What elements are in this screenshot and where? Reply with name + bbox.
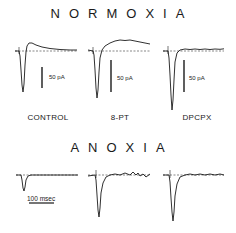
normoxia-control-trace xyxy=(15,43,77,92)
scale-label-8pt: 50 pA xyxy=(117,75,133,81)
condition-label-dpcpx: DPCPX xyxy=(182,113,211,122)
condition-label-control: CONTROL xyxy=(27,113,68,122)
scale-label-control: 50 pA xyxy=(49,74,65,80)
time-scale-label: 100 msec xyxy=(27,195,55,202)
anoxia-8pt-trace xyxy=(88,172,150,217)
normoxia-8pt-trace xyxy=(88,40,150,98)
anoxia-control-trace xyxy=(16,175,78,191)
scale-label-dpcpx: 50 pA xyxy=(189,75,205,81)
condition-label-8pt: 8-PT xyxy=(111,113,130,122)
anoxia-dpcpx-trace xyxy=(163,174,224,221)
anoxia-title: ANOXIA xyxy=(4,140,236,155)
